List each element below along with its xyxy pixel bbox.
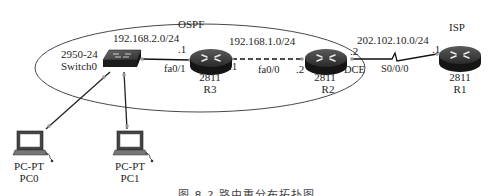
pc0-model: PC-PT: [14, 160, 44, 172]
r1-name: R1: [454, 83, 467, 95]
r1-model: 2811: [449, 71, 471, 83]
ospf-area-label: OSPF: [178, 18, 204, 30]
pc-icon-pc0[interactable]: [13, 131, 53, 162]
r3-name: R3: [204, 83, 217, 95]
network-topology-diagram: OSPF ISP 192.168.2.0/24 192.168.1.0/24 2…: [0, 0, 493, 196]
r3-wan-ip: .1: [229, 60, 237, 72]
network-label-lan: 192.168.2.0/24: [113, 32, 179, 44]
link-switch0-pc1: [124, 72, 127, 129]
link-r2-r1-serial: [352, 53, 437, 61]
r2-name: R2: [322, 83, 335, 95]
r1-serial-ip: .1: [432, 43, 440, 55]
link-switch0-pc0: [46, 72, 110, 129]
router-icon-r1[interactable]: [439, 46, 481, 72]
network-label-r2-r1: 202.102.10.0/24: [357, 34, 429, 46]
r3-lan-ip: .1: [178, 43, 186, 55]
network-label-r3-r2: 192.168.1.0/24: [229, 35, 295, 47]
r3-lan-interface: fa0/1: [164, 63, 186, 75]
r2-lan-interface: fa0/0: [258, 64, 280, 76]
r2-lan-ip: .2: [296, 63, 304, 75]
switch-icon[interactable]: [103, 50, 141, 67]
pc0-name: PC0: [20, 172, 39, 184]
pc1-name: PC1: [121, 172, 140, 184]
r2-serial-ip: .2: [350, 45, 358, 57]
pc1-model: PC-PT: [115, 160, 145, 172]
r2-model: 2811: [314, 71, 336, 83]
r2-dce-label: DCE: [344, 64, 365, 76]
switch0-name: Switch0: [61, 60, 97, 72]
r2-serial-interface: S0/0/0: [381, 63, 408, 75]
switch0-model: 2950-24: [61, 48, 98, 60]
pc-icon-pc1[interactable]: [113, 131, 153, 162]
isp-label: ISP: [449, 21, 465, 33]
r3-model: 2811: [199, 71, 221, 83]
topology-canvas: [0, 0, 493, 196]
figure-caption: 图 8-? 路由重分布拓扑图: [178, 186, 315, 196]
link-switch0-r3: [142, 59, 190, 60]
